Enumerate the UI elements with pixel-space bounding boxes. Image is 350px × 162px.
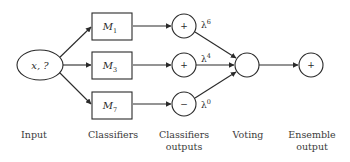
- stage-label-voting: Voting: [232, 129, 264, 140]
- ensemble-diagram: x, ? M1 M3 M7 + λ6 + λ4 − λ0 + Input: [0, 0, 350, 162]
- edge-input-m1: [55, 27, 91, 62]
- classifier-output-1: + λ6: [172, 14, 211, 38]
- weight-label: λ4: [201, 52, 211, 64]
- output-sign: +: [180, 60, 188, 70]
- classifier-subscript: 3: [113, 66, 117, 74]
- classifier-m7: M7: [92, 92, 132, 119]
- stage-label-ensemble-line1: Ensemble: [288, 129, 336, 140]
- input-label: x, ?: [31, 60, 49, 71]
- output-sign: +: [180, 21, 188, 31]
- stage-label-classifiers-outputs-line2: outputs: [166, 141, 203, 152]
- stage-labels: Input Classifiers Classifiers outputs Vo…: [21, 129, 336, 152]
- ensemble-output-node: +: [299, 53, 323, 77]
- classifier-name: M: [102, 100, 114, 111]
- classifier-output-3: − λ0: [172, 92, 211, 116]
- edge-output3-voting: [195, 72, 236, 98]
- classifier-subscript: 7: [113, 106, 117, 114]
- output-sign: −: [180, 99, 188, 109]
- stage-label-ensemble-line2: output: [296, 141, 328, 152]
- classifier-name: M: [102, 21, 114, 32]
- edge-input-m7: [55, 68, 91, 104]
- weight-label: λ0: [201, 98, 211, 110]
- stage-label-input: Input: [21, 129, 47, 140]
- input-node: x, ?: [17, 50, 63, 80]
- stage-label-classifiers-outputs-line1: Classifiers: [159, 129, 209, 140]
- weight-label: λ6: [201, 18, 211, 30]
- classifier-subscript: 1: [113, 27, 117, 35]
- classifier-m3: M3: [92, 52, 132, 79]
- edges-outputs-to-voting: [195, 32, 236, 98]
- classifier-name: M: [102, 60, 114, 71]
- ensemble-sign: +: [307, 60, 315, 70]
- classifier-m1: M1: [92, 13, 132, 40]
- edges-classifiers-to-outputs: [133, 26, 171, 104]
- voting-node: [235, 53, 259, 77]
- stage-label-classifiers: Classifiers: [88, 129, 138, 140]
